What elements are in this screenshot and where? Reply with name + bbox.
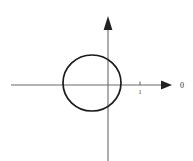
circle-shape xyxy=(63,55,121,111)
x-axis-arrowhead xyxy=(161,81,172,90)
y-axis-arrowhead xyxy=(104,16,113,30)
y-axis-group xyxy=(104,16,113,161)
x-axis-group xyxy=(11,81,172,90)
coordinate-plot: 1 0 xyxy=(0,0,193,161)
x-tick-label-1: 1 xyxy=(139,89,142,95)
x-axis-label: 0 xyxy=(180,81,184,90)
figure-canvas: 1 0 xyxy=(0,0,193,161)
